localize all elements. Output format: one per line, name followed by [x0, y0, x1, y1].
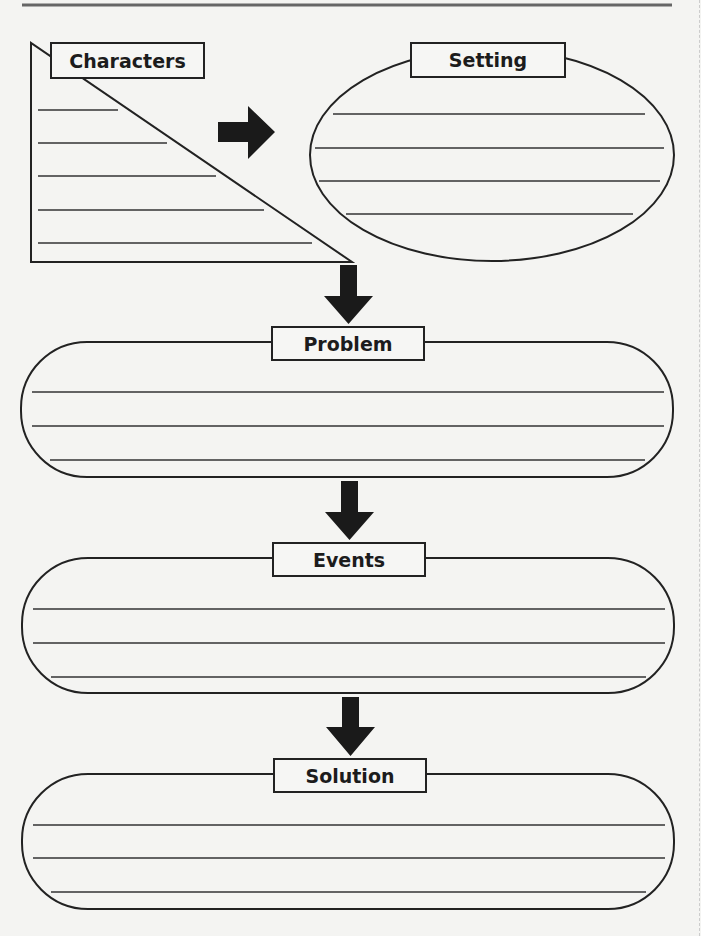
arrow-down-icon — [325, 481, 374, 540]
events-label: Events — [272, 542, 426, 577]
arrow-down-icon — [326, 697, 375, 756]
events-capsule — [22, 558, 674, 693]
diagram-canvas — [0, 0, 701, 936]
story-map-worksheet: Characters Setting Problem Events Soluti… — [0, 0, 701, 936]
setting-label: Setting — [410, 42, 566, 78]
problem-capsule — [21, 342, 673, 477]
problem-label: Problem — [271, 326, 425, 361]
characters-label: Characters — [50, 42, 205, 79]
solution-label: Solution — [273, 758, 427, 793]
solution-capsule — [22, 774, 674, 909]
setting-ellipse — [310, 49, 674, 261]
arrow-right-icon — [218, 106, 275, 159]
arrow-down-icon — [324, 265, 373, 324]
